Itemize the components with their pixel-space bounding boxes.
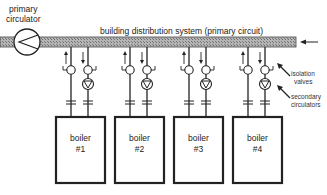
flow-down-arrow-icon bbox=[199, 60, 203, 64]
isolation-valves-label-line2: valves bbox=[291, 78, 315, 86]
isolation-valve-icon bbox=[143, 66, 151, 74]
primary-circulator-label: primary circulator bbox=[6, 4, 40, 24]
isolation-valve-icon bbox=[244, 66, 252, 74]
primary-circuit-label: building distribution system (primary ci… bbox=[100, 26, 263, 36]
isolation-valve-icon bbox=[185, 66, 193, 74]
primary-circulator-label-line2: circulator bbox=[6, 14, 40, 24]
flow-up-arrow-icon bbox=[123, 51, 127, 55]
primary-pipe bbox=[0, 37, 296, 47]
flow-down-arrow-icon bbox=[81, 60, 85, 64]
label-pointer-arrows bbox=[277, 63, 290, 98]
flow-up-arrow-icon bbox=[241, 51, 245, 55]
isolation-valves-label-line1: isolation bbox=[291, 70, 315, 78]
isolation-valve-icon bbox=[126, 66, 134, 74]
boiler-2-number: #2 bbox=[114, 144, 165, 155]
flow-up-arrow-icon bbox=[64, 51, 68, 55]
flow-down-arrow-icon bbox=[140, 60, 144, 64]
isolation-valve-icon bbox=[261, 66, 269, 74]
secondary-circulators-label: secondary circulators bbox=[291, 93, 321, 109]
secondary-branches bbox=[56, 47, 282, 183]
flow-direction-arrow-icon bbox=[300, 40, 318, 45]
flow-up-arrow-icon bbox=[182, 51, 186, 55]
primary-circulator-icon bbox=[14, 29, 40, 55]
isolation-valve-icon bbox=[202, 66, 210, 74]
boiler-4-name: boiler bbox=[232, 133, 283, 144]
boiler-3-name: boiler bbox=[173, 133, 224, 144]
secondary-circulators-label-line2: circulators bbox=[291, 101, 321, 109]
primary-circulator-label-line1: primary bbox=[6, 4, 40, 14]
isolation-valve-icon bbox=[84, 66, 92, 74]
secondary-circulators-label-line1: secondary bbox=[291, 93, 321, 101]
boiler-4-label: boiler #4 bbox=[232, 133, 283, 155]
isolation-valves-label: isolation valves bbox=[291, 70, 315, 86]
boiler-1-label: boiler #1 bbox=[55, 133, 106, 155]
boiler-4-number: #4 bbox=[232, 144, 283, 155]
flow-down-arrow-icon bbox=[258, 60, 262, 64]
boiler-2-name: boiler bbox=[114, 133, 165, 144]
boiler-2-label: boiler #2 bbox=[114, 133, 165, 155]
boiler-3-label: boiler #3 bbox=[173, 133, 224, 155]
boiler-3-number: #3 bbox=[173, 144, 224, 155]
isolation-valve-icon bbox=[67, 66, 75, 74]
boiler-1-name: boiler bbox=[55, 133, 106, 144]
boiler-1-number: #1 bbox=[55, 144, 106, 155]
